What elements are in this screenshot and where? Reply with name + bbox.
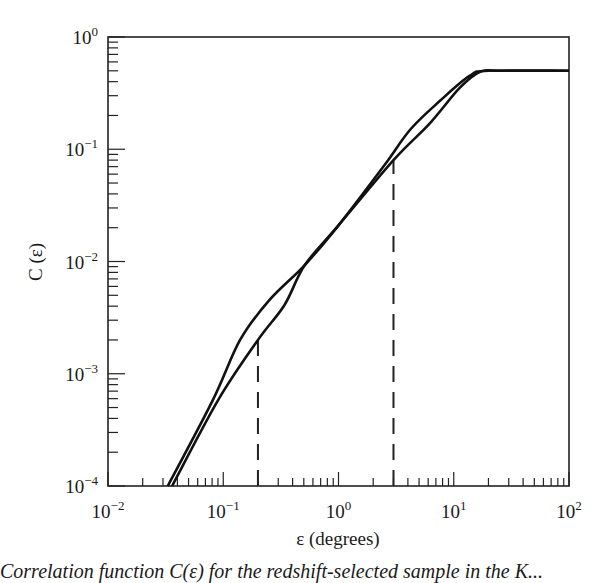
x-tick-label: 10−1 [207, 498, 240, 522]
y-tick-label: 10−1 [65, 136, 98, 160]
data-curve-curve-1 [168, 70, 569, 486]
y-tick-label: 10−3 [65, 361, 98, 385]
axis-ticks [108, 37, 569, 486]
y-tick-label: 10−4 [65, 473, 98, 497]
correlation-chart: 10−210−1100101102 10−410−310−210−1100 ε … [0, 0, 611, 583]
figure-caption: Correlation function C(ε) for the redshi… [0, 560, 611, 583]
x-tick-label: 10−2 [92, 498, 125, 522]
data-curve-curve-2 [172, 70, 569, 486]
x-tick-labels: 10−210−1100101102 [92, 498, 582, 522]
x-tick-label: 102 [556, 498, 582, 522]
y-tick-label: 100 [73, 24, 99, 48]
x-tick-label: 100 [326, 498, 352, 522]
x-axis-label: ε (degrees) [296, 528, 379, 550]
y-tick-labels: 10−410−310−210−1100 [65, 24, 98, 497]
y-tick-label: 10−2 [65, 249, 98, 273]
dashed-reference-lines [258, 160, 394, 486]
y-axis-label: C (ε) [25, 243, 47, 281]
data-curves [168, 70, 569, 486]
x-tick-label: 101 [441, 498, 467, 522]
plot-frame [108, 37, 569, 486]
